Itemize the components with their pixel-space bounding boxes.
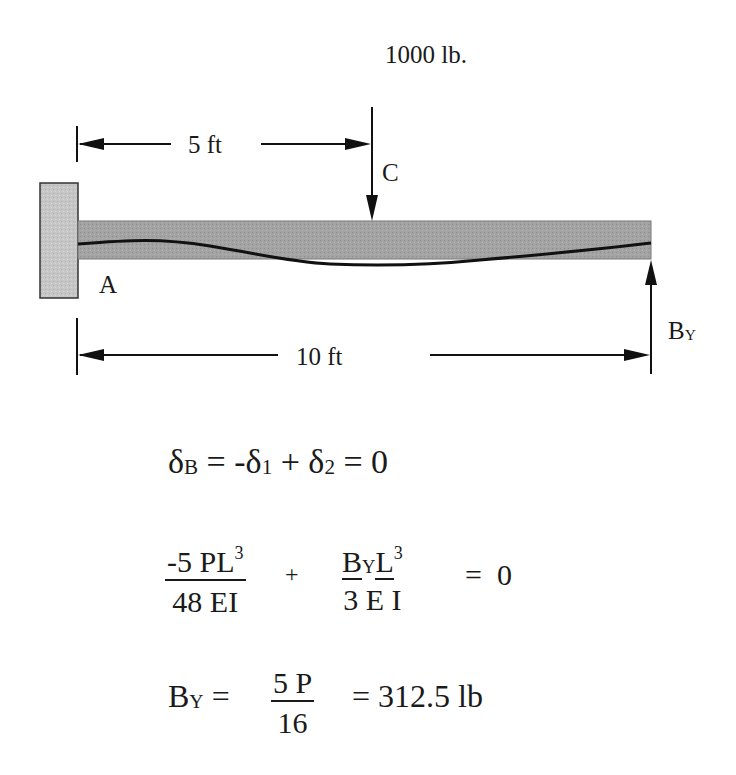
fraction3-denominator: 16 <box>271 702 314 738</box>
delta-symbol: δ <box>168 443 184 480</box>
point-c-label: C <box>382 160 399 185</box>
reaction-by-sub: Y <box>685 326 696 343</box>
fraction-reaction-deflection: BYL3 3 E I <box>342 544 403 615</box>
reaction-arrow-by <box>645 260 657 374</box>
delta2-symbol: δ <box>308 443 324 480</box>
reaction-by-label: BY <box>668 318 696 343</box>
eq2-plus: + <box>285 562 299 586</box>
reaction-by-main: B <box>668 317 685 344</box>
delta1-sub: 1 <box>262 455 273 479</box>
delta2-sub: 2 <box>324 455 335 479</box>
dimension-10ft <box>77 318 650 375</box>
beam-diagram <box>0 0 736 400</box>
eq1-end: = 0 <box>335 443 388 480</box>
eq1-equals-minus: = - <box>198 443 246 480</box>
delta-b-sub: B <box>184 455 198 479</box>
fraction-result: 5 P 16 <box>271 668 314 738</box>
load-label: 1000 lb. <box>385 42 467 67</box>
fraction2-numerator: BYL3 <box>342 544 403 579</box>
eq3-b: B <box>168 678 189 714</box>
fraction-load-deflection: -5 PL3 48 EI <box>165 544 246 617</box>
eq2-equals-zero: = 0 <box>465 560 512 590</box>
equation-compatibility: δB = -δ1 + δ2 = 0 <box>168 445 388 479</box>
eq3-result: = 312.5 lb <box>352 680 483 712</box>
dimension-5ft <box>77 126 371 162</box>
dimension-5ft-label: 5 ft <box>188 132 222 157</box>
eq3-equals: = <box>204 678 238 714</box>
eq3-y-sub: Y <box>189 690 203 712</box>
eq3-lhs: BY = <box>168 680 238 712</box>
fraction1-numerator: -5 PL3 <box>165 544 246 581</box>
support-a-label: A <box>99 272 117 297</box>
fraction1-denominator: 48 EI <box>165 581 246 617</box>
dimension-10ft-label: 10 ft <box>296 344 343 369</box>
delta1-symbol: δ <box>246 443 262 480</box>
point-load-arrow <box>366 107 378 221</box>
fraction2-denominator: 3 E I <box>342 579 403 615</box>
eq1-plus: + <box>272 443 308 480</box>
fixed-wall-support <box>40 183 78 298</box>
fraction3-numerator: 5 P <box>271 668 314 702</box>
